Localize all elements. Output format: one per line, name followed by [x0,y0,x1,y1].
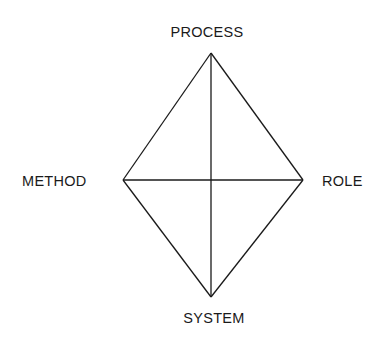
diamond-diagram: PROCESS METHOD ROLE SYSTEM [0,0,388,344]
edge-process-role [211,53,303,180]
edge-process-method [123,53,211,180]
node-label-role: ROLE [322,173,363,189]
diamond-edges [123,53,303,297]
edge-system-role [211,180,303,297]
node-label-method: METHOD [22,173,87,189]
node-label-process: PROCESS [170,24,243,40]
node-label-system: SYSTEM [183,310,244,326]
edge-system-method [123,180,211,297]
